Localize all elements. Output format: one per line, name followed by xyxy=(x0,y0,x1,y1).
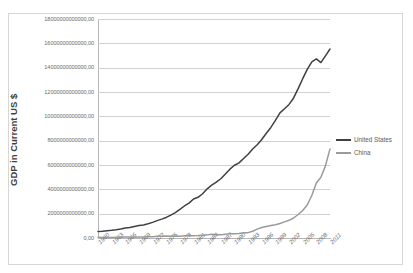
legend-swatch xyxy=(336,152,351,154)
series-layer xyxy=(98,19,330,238)
gdp-line-chart: 2012 GDP in Current US $ 18000000000000,… xyxy=(0,0,413,273)
series-line-china xyxy=(98,149,330,238)
series-line-united-states xyxy=(98,49,330,231)
legend-item[interactable]: United States xyxy=(336,133,406,146)
legend-item[interactable]: China xyxy=(336,146,406,159)
chart-legend: United StatesChina xyxy=(336,133,406,159)
legend-label: China xyxy=(354,149,370,156)
legend-swatch xyxy=(336,139,351,141)
x-tick-label: 2011 xyxy=(329,232,342,245)
legend-label: United States xyxy=(354,136,392,143)
